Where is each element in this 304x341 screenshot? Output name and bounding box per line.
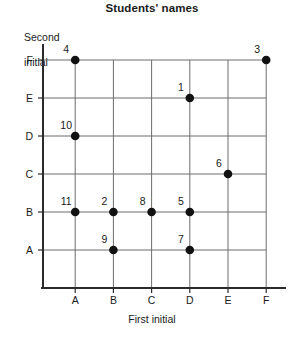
data-point-7: 7 xyxy=(178,233,194,254)
point-marker-4 xyxy=(71,56,80,65)
point-marker-5 xyxy=(186,208,195,217)
grid-lines xyxy=(43,60,266,288)
x-tick-label-B: B xyxy=(110,294,117,306)
point-label-2: 2 xyxy=(101,195,107,207)
y-tick-label-B: B xyxy=(26,206,33,218)
point-marker-8 xyxy=(147,208,156,217)
data-point-10: 10 xyxy=(60,119,79,140)
point-label-7: 7 xyxy=(178,233,184,245)
point-marker-10 xyxy=(71,132,80,141)
y-tick-label-E: E xyxy=(26,92,33,104)
point-marker-6 xyxy=(224,170,233,179)
point-label-5: 5 xyxy=(178,195,184,207)
point-marker-7 xyxy=(186,246,195,255)
data-point-1: 1 xyxy=(178,81,194,102)
data-point-5: 5 xyxy=(178,195,194,216)
x-axis-label: First initial xyxy=(0,313,304,325)
x-tick-label-F: F xyxy=(263,294,269,306)
point-label-6: 6 xyxy=(216,157,222,169)
scatter-plot-figure: Students' names Second initial ABCDEFABC… xyxy=(0,0,304,341)
y-tick-label-C: C xyxy=(25,168,33,180)
point-label-11: 11 xyxy=(61,195,72,207)
point-marker-9 xyxy=(109,246,118,255)
point-marker-3 xyxy=(262,56,271,65)
x-tick-label-C: C xyxy=(148,294,156,306)
data-point-3: 3 xyxy=(254,43,270,64)
plot-canvas: ABCDEFABCDEF 4311061128597 xyxy=(0,0,304,341)
y-tick-label-D: D xyxy=(25,130,33,142)
x-tick-label-E: E xyxy=(224,294,231,306)
point-marker-11 xyxy=(71,208,80,217)
data-point-9: 9 xyxy=(101,233,117,254)
axis-tick-labels: ABCDEFABCDEF xyxy=(25,54,269,306)
data-point-11: 11 xyxy=(61,195,80,216)
data-point-8: 8 xyxy=(140,195,156,216)
point-label-1: 1 xyxy=(178,81,184,93)
x-tick-label-A: A xyxy=(72,294,79,306)
y-tick-label-A: A xyxy=(26,244,33,256)
point-label-8: 8 xyxy=(140,195,146,207)
point-label-10: 10 xyxy=(60,119,72,131)
point-marker-1 xyxy=(186,94,195,103)
data-point-4: 4 xyxy=(63,43,79,64)
axis-lines xyxy=(42,45,285,288)
x-tick-label-D: D xyxy=(186,294,194,306)
point-label-3: 3 xyxy=(254,43,260,55)
point-label-9: 9 xyxy=(101,233,107,245)
y-tick-label-F: F xyxy=(27,54,33,66)
point-marker-2 xyxy=(109,208,118,217)
data-points: 4311061128597 xyxy=(60,43,270,254)
point-label-4: 4 xyxy=(63,43,69,55)
data-point-2: 2 xyxy=(101,195,117,216)
data-point-6: 6 xyxy=(216,157,232,178)
